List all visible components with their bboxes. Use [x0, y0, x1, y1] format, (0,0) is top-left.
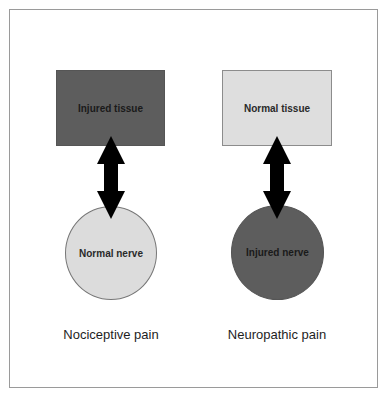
- injured-nerve-label: Injured nerve: [246, 247, 309, 258]
- double-arrow-icon: [262, 136, 292, 220]
- injured-tissue-label: Injured tissue: [78, 103, 143, 114]
- injured-tissue-box: Injured tissue: [56, 70, 165, 146]
- neuropathic-pain-caption: Neuropathic pain: [207, 327, 347, 342]
- double-arrow-icon: [96, 136, 126, 220]
- normal-tissue-box: Normal tissue: [222, 70, 332, 146]
- nociceptive-pain-caption: Nociceptive pain: [41, 327, 181, 342]
- normal-nerve-label: Normal nerve: [79, 248, 143, 259]
- normal-nerve-circle: Normal nerve: [65, 206, 157, 300]
- normal-tissue-label: Normal tissue: [244, 103, 310, 114]
